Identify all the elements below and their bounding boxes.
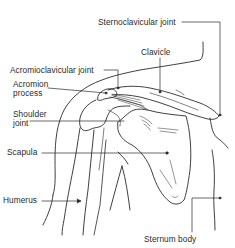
label-humerus: Humerus — [3, 196, 37, 205]
clavicle-bone — [108, 86, 219, 119]
axilla-lines — [110, 152, 130, 210]
label-sternoclavicular-joint: Sternoclavicular joint — [98, 18, 176, 27]
shoulder-anatomy-diagram: Sternoclavicular joint Clavicle Acromioc… — [0, 0, 235, 248]
label-clavicle: Clavicle — [141, 48, 170, 57]
label-acromioclavicular-joint: Acromioclavicular joint — [10, 66, 94, 75]
label-scapula: Scapula — [7, 148, 37, 157]
anatomy-drawing — [0, 0, 235, 248]
skin-outline-chest — [210, 118, 228, 230]
skin-outline-arm — [43, 195, 53, 225]
leader-lines — [30, 22, 221, 232]
label-sternum-body: Sternum body — [144, 235, 196, 244]
humerus-head — [80, 100, 130, 131]
label-shoulder-line2: joint — [13, 119, 28, 128]
humerus-shaft — [62, 128, 80, 235]
scapula-bone — [118, 109, 191, 204]
label-acromion-line2: process — [13, 89, 42, 98]
